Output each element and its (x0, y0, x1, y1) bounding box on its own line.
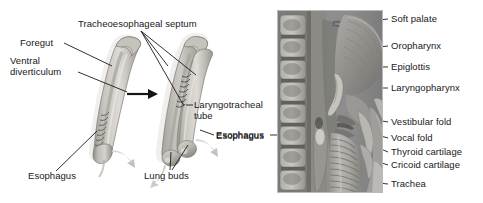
label-ventral-diverticulum: Ventral diverticulum (10, 55, 61, 77)
label-trachea: Trachea (391, 178, 426, 189)
lung-bud-left (162, 150, 180, 166)
label-esophagus-left-embryo: Esophagus (28, 170, 76, 181)
sagittal-section-photograph (277, 10, 383, 193)
label-cricoid-cartilage: Cricoid cartilage (391, 159, 460, 170)
label-lung-buds: Lung buds (144, 170, 189, 181)
label-vestibular-fold: Vestibular fold (391, 116, 451, 127)
septum-ridges-stage2 (176, 74, 191, 107)
label-epiglottis: Epiglottis (391, 61, 430, 72)
transition-arrow (127, 89, 158, 99)
anatomy-figure: Tracheoesophageal septum Foregut Ventral… (0, 0, 483, 203)
septum-ridges-stage1 (95, 112, 109, 145)
label-laryngopharynx: Laryngopharynx (391, 82, 460, 93)
label-tracheoesophageal-septum: Tracheoesophageal septum (78, 18, 197, 29)
label-laryngotracheal-tube: Laryngotracheal tube (194, 99, 263, 121)
label-thyroid-cartilage: Thyroid cartilage (391, 146, 462, 157)
label-foregut: Foregut (20, 37, 53, 48)
label-oropharynx: Oropharynx (391, 40, 441, 51)
label-vocal-fold: Vocal fold (391, 132, 433, 143)
label-esophagus-sagittal: Esophagus (216, 129, 264, 140)
embryo-stage-1 (89, 35, 141, 177)
leader-lines-left (56, 31, 214, 171)
lung-bud-right (178, 141, 197, 158)
sagittal-section-image (278, 11, 383, 193)
label-soft-palate: Soft palate (391, 13, 437, 24)
